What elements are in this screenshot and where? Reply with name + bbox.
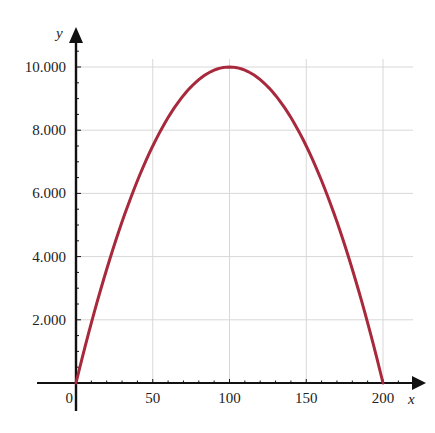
axes: [37, 27, 426, 411]
grid-lines: [76, 59, 413, 383]
y-axis-arrow-icon: [69, 27, 83, 43]
y-tick-label: 8.000: [32, 122, 66, 138]
tick-labels: 0501001502002.0004.0006.0008.00010.000: [25, 59, 395, 406]
x-tick-label: 200: [372, 390, 395, 406]
x-axis-arrow-icon: [412, 376, 426, 390]
y-tick-label: 6.000: [32, 185, 66, 201]
y-tick-label: 10.000: [25, 59, 66, 75]
y-tick-label: 2.000: [32, 312, 66, 328]
parabola-chart: 0501001502002.0004.0006.0008.00010.000 x…: [0, 0, 435, 433]
y-axis-label: y: [54, 25, 63, 41]
x-tick-label: 0: [66, 390, 74, 406]
x-tick-label: 100: [218, 390, 241, 406]
x-tick-label: 150: [295, 390, 318, 406]
y-tick-label: 4.000: [32, 249, 66, 265]
x-tick-label: 50: [145, 390, 160, 406]
x-axis-label: x: [407, 391, 415, 407]
